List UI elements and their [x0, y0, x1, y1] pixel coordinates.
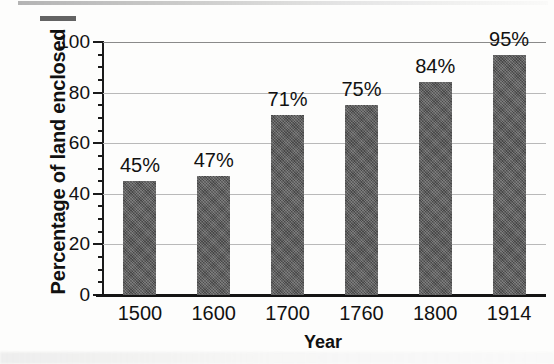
- bar-1760: [345, 105, 378, 295]
- scan-artifact-bottom: [0, 352, 554, 364]
- bar-1700: [271, 115, 304, 295]
- bar-1800: [419, 82, 452, 295]
- bar-chart-figure: Percentage of land enclosed 020406080100…: [0, 0, 554, 364]
- scan-artifact-top: [18, 1, 548, 5]
- y-tick-label-20: 20: [44, 233, 90, 255]
- bar-value-label-1760: 75%: [321, 78, 401, 101]
- y-tick-label-80: 80: [44, 82, 90, 104]
- bar-1500: [123, 181, 156, 295]
- gridline-60: [103, 143, 546, 144]
- y-axis-title: Percentage of land enclosed: [47, 12, 70, 312]
- bar-value-label-1500: 45%: [100, 154, 180, 177]
- y-tick-label-0: 0: [44, 284, 90, 306]
- gridline-20: [103, 244, 546, 245]
- x-tick-label-1914: 1914: [464, 302, 554, 325]
- bar-1914: [493, 55, 526, 295]
- bar-1600: [197, 176, 230, 295]
- bar-value-label-1700: 71%: [248, 88, 328, 111]
- bar-value-label-1800: 84%: [395, 55, 475, 78]
- y-tick-label-100: 100: [44, 31, 90, 53]
- gridline-40: [103, 194, 546, 195]
- bar-value-label-1600: 47%: [174, 149, 254, 172]
- bar-value-label-1914: 95%: [469, 28, 549, 51]
- y-tick-label-40: 40: [44, 183, 90, 205]
- y-tick-label-60: 60: [44, 132, 90, 154]
- x-axis-title: Year: [100, 332, 546, 353]
